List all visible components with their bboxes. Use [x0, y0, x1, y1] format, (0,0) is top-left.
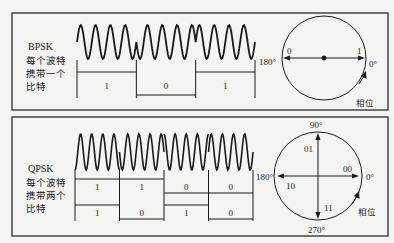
arrow-head-right-icon: [352, 174, 359, 179]
bpsk-bit-label: 0: [164, 81, 169, 91]
bpsk-title: BPSK: [28, 41, 54, 52]
qpsk-panel: QPSK 每个波特 携带两个 比特 11001010 00 01 10 11 9…: [12, 117, 388, 236]
qpsk-bit-label: 1: [95, 208, 100, 218]
bpsk-phase-diagram: 0 1 180° 0° 相位: [259, 16, 378, 108]
qpsk-bit-label: 0: [184, 182, 189, 192]
bpsk-bit-stream: 101: [77, 60, 255, 98]
qpsk-axis-label-90: 90°: [310, 120, 323, 130]
bpsk-point-label-1: 1: [357, 46, 362, 56]
arrow-head-up-icon: [316, 133, 321, 140]
bpsk-desc-line-3: 比特: [26, 81, 46, 92]
qpsk-carrier-waveform: [75, 134, 253, 170]
bpsk-desc-line-2: 携带一个: [26, 68, 66, 79]
qpsk-point-label-10: 10: [286, 181, 296, 191]
qpsk-axis-label-180: 180°: [256, 172, 274, 182]
qpsk-point-label-11: 11: [324, 203, 333, 213]
qpsk-point-label-00: 00: [343, 164, 353, 174]
arrow-head-left-icon: [277, 174, 284, 179]
qpsk-point-label-01: 01: [304, 144, 313, 154]
qpsk-axis-label-270: 270°: [308, 225, 326, 235]
arrow-head-right-icon: [358, 56, 365, 61]
qpsk-bit-stream: 11001010: [75, 170, 253, 221]
qpsk-bit-label: 0: [140, 208, 145, 218]
qpsk-bit-label: 1: [184, 208, 189, 218]
qpsk-bit-label: 1: [140, 182, 145, 192]
bpsk-desc-line-1: 每个波特: [26, 55, 66, 66]
bpsk-axis-label-0: 0°: [369, 59, 378, 69]
qpsk-phase-diagram: 00 01 10 11 90° 180° 0° 270° 相位: [256, 120, 376, 235]
qpsk-desc-line-1: 每个波特: [26, 177, 66, 188]
bpsk-phase-label: 相位: [356, 98, 374, 108]
qpsk-desc-line-2: 携带两个: [26, 190, 66, 201]
qpsk-bit-label: 1: [95, 182, 100, 192]
arrow-head-down-icon: [316, 212, 321, 219]
origin-dot: [322, 56, 327, 61]
bpsk-carrier-waveform: [77, 25, 255, 59]
arrow-head-left-icon: [283, 56, 290, 61]
bpsk-bit-label: 1: [104, 81, 109, 91]
modulation-diagram: BPSK 每个波特 携带一个 比特 101 0 1 180° 0° 相位 QPS…: [0, 0, 394, 243]
bpsk-bit-label: 1: [223, 81, 228, 91]
qpsk-bit-label: 0: [229, 208, 234, 218]
qpsk-axis-label-0: 0°: [366, 172, 375, 182]
bpsk-point-label-0: 0: [287, 46, 292, 56]
qpsk-title: QPSK: [28, 163, 54, 174]
bpsk-axis-label-180: 180°: [259, 57, 277, 67]
qpsk-bit-label: 0: [229, 182, 234, 192]
qpsk-desc-line-3: 比特: [26, 203, 46, 214]
qpsk-phase-label: 相位: [358, 207, 376, 217]
bpsk-panel: BPSK 每个波特 携带一个 比特 101 0 1 180° 0° 相位: [12, 13, 388, 110]
